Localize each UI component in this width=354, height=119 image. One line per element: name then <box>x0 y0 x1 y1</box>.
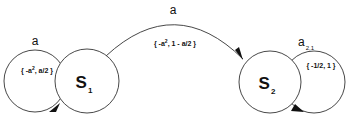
arrowhead-icon <box>235 47 243 60</box>
transition-s1-to-s2: a { -a2, 1 - a/2 } <box>106 3 243 60</box>
transition-label: a <box>170 3 177 17</box>
transition-guard: { -a2, 1 - a/2 } <box>154 38 196 48</box>
transition-guard: { -1/2, 1 } <box>306 62 335 70</box>
state-s1: S1 <box>55 49 119 113</box>
transition-label: a <box>32 34 39 48</box>
transition-label: a2,1 <box>298 35 315 51</box>
state-diagram: a { -a2, a/2 } a { -a2, 1 - a/2 } a2,1 {… <box>0 0 354 119</box>
state-s2: S2 <box>239 51 301 113</box>
transition-guard: { -a2, a/2 } <box>21 65 53 75</box>
